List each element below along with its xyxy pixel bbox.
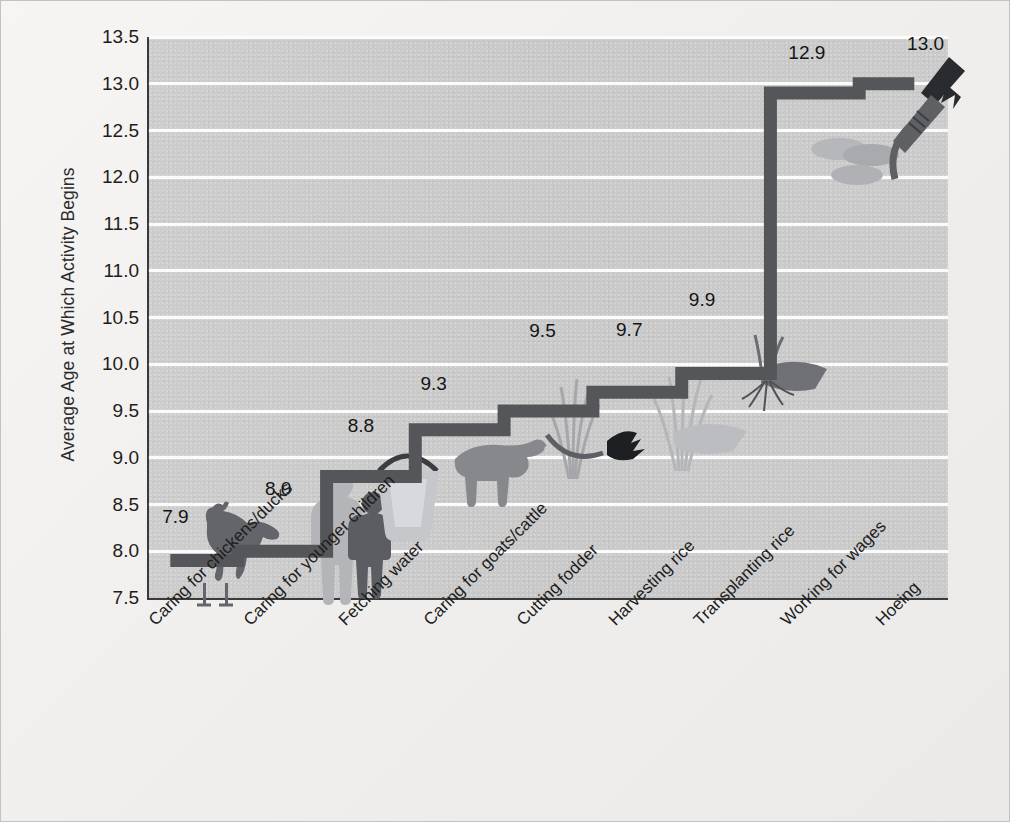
x-axis-category-label: Hoeing — [872, 578, 924, 630]
x-axis-label-layer: Caring for chickens/ducksCaring for youn… — [1, 1, 1010, 822]
x-axis-category-label: Harvesting rice — [605, 536, 699, 630]
chart-figure: Average Age at Which Activity Begins 13.… — [0, 0, 1010, 822]
x-axis-category-label: Caring for younger children — [240, 471, 399, 630]
x-axis-category-label: Fetching water — [335, 537, 428, 630]
x-axis-category-label: Cutting fodder — [513, 540, 603, 630]
